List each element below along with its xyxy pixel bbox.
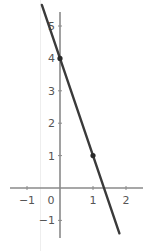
y-tick-label: 1 [48, 150, 55, 163]
data-point [57, 56, 62, 61]
coordinate-plot: −1012 −112345 [0, 0, 150, 251]
y-tick-label: 4 [48, 52, 55, 65]
data-point [90, 153, 95, 158]
x-tick-label: −1 [19, 194, 35, 207]
x-tick-label: 1 [90, 194, 97, 207]
y-tick-label: −1 [39, 214, 55, 227]
y-tick-label: 3 [48, 85, 55, 98]
y-tick-label: 2 [48, 117, 55, 130]
x-tick-label: 0 [48, 194, 55, 207]
x-tick-label: 2 [123, 194, 130, 207]
x-axis-ticks: −1012 [19, 186, 130, 207]
